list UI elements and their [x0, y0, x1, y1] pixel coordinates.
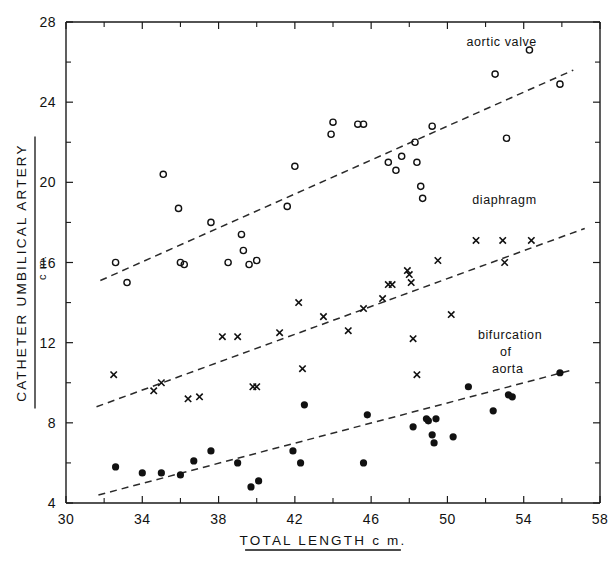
- data-point: [379, 295, 385, 301]
- data-point: [219, 333, 225, 339]
- data-point: [299, 366, 305, 372]
- data-point: [503, 135, 509, 141]
- series-diaphragm: [110, 237, 534, 402]
- x-tick-label: 58: [592, 511, 609, 527]
- data-point: [448, 311, 454, 317]
- data-point: [465, 383, 472, 390]
- data-point: [364, 411, 371, 418]
- data-point: [473, 237, 479, 243]
- data-point: [556, 369, 563, 376]
- data-point: [330, 119, 336, 125]
- data-point: [360, 305, 366, 311]
- data-point: [240, 247, 246, 253]
- data-point: [247, 483, 254, 490]
- y-tick-label: 20: [39, 174, 56, 190]
- data-point: [254, 257, 260, 263]
- trendline-diaphragm: [97, 228, 585, 406]
- data-point: [345, 327, 351, 333]
- data-point: [450, 433, 457, 440]
- data-point: [292, 163, 298, 169]
- y-axis-title-denominator: c m.: [36, 255, 48, 280]
- data-point: [139, 469, 146, 476]
- series-annotation-aortic-valve: aortic valve: [467, 35, 537, 49]
- data-point: [360, 459, 367, 466]
- data-point: [276, 329, 282, 335]
- series-bifurcation-of-aorta: [112, 369, 564, 490]
- data-point: [254, 384, 260, 390]
- data-point: [158, 469, 165, 476]
- x-tick-label: 46: [363, 511, 380, 527]
- data-point: [151, 388, 157, 394]
- data-point: [425, 417, 432, 424]
- x-tick-label: 54: [515, 511, 532, 527]
- data-point: [435, 257, 441, 263]
- data-point: [196, 394, 202, 400]
- data-point: [393, 167, 399, 173]
- y-tick-label: 28: [39, 14, 56, 30]
- figure-container: 3034384246505458481216202428aortic valve…: [0, 0, 613, 562]
- series-aortic-valve: [112, 47, 563, 286]
- trendline-bifurcation-of-aorta: [98, 371, 569, 495]
- data-point: [328, 131, 334, 137]
- x-tick-label: 42: [287, 511, 304, 527]
- trendline-aortic-valve: [100, 70, 573, 280]
- data-point: [430, 439, 437, 446]
- data-point: [410, 423, 417, 430]
- data-point: [185, 396, 191, 402]
- data-point: [112, 463, 119, 470]
- data-point: [160, 171, 166, 177]
- data-point: [238, 231, 244, 237]
- y-tick-label: 4: [48, 495, 56, 511]
- data-point: [432, 415, 439, 422]
- data-point: [500, 237, 506, 243]
- data-point: [234, 459, 241, 466]
- data-point: [389, 281, 395, 287]
- y-tick-label: 8: [48, 415, 56, 431]
- data-point: [190, 457, 197, 464]
- data-point: [414, 372, 420, 378]
- series-annotation-diaphragm: diaphragm: [472, 193, 536, 207]
- data-point: [295, 299, 301, 305]
- data-point: [408, 279, 414, 285]
- data-point: [414, 159, 420, 165]
- data-point: [410, 335, 416, 341]
- series-annotation-bifurcation-of-aorta: of: [500, 345, 512, 359]
- data-point: [399, 153, 405, 159]
- data-point: [255, 477, 262, 484]
- data-point: [284, 203, 290, 209]
- data-point: [177, 471, 184, 478]
- data-point: [234, 333, 240, 339]
- x-tick-label: 50: [439, 511, 456, 527]
- data-point: [110, 372, 116, 378]
- data-point: [124, 279, 130, 285]
- data-point: [418, 183, 424, 189]
- data-point: [225, 259, 231, 265]
- data-point: [385, 159, 391, 165]
- data-point: [112, 259, 118, 265]
- y-tick-label: 12: [39, 335, 56, 351]
- data-point: [208, 219, 214, 225]
- data-point: [207, 447, 214, 454]
- data-point: [297, 459, 304, 466]
- y-tick-label: 24: [39, 94, 56, 110]
- y-axis-title-numerator: CATHETER UMBILICAL ARTERY: [14, 143, 29, 402]
- data-point: [246, 261, 252, 267]
- x-tick-label: 38: [210, 511, 227, 527]
- series-annotation-bifurcation-of-aorta: aorta: [492, 362, 524, 376]
- data-point: [158, 380, 164, 386]
- data-point: [528, 237, 534, 243]
- data-point: [429, 431, 436, 438]
- data-point: [175, 205, 181, 211]
- data-point: [490, 407, 497, 414]
- data-point: [289, 447, 296, 454]
- data-point: [509, 393, 516, 400]
- series-annotation-bifurcation-of-aorta: bifurcation: [478, 328, 542, 342]
- x-axis-title: TOTAL LENGTH c m.: [240, 533, 407, 548]
- data-point: [301, 401, 308, 408]
- data-point: [501, 259, 507, 265]
- x-tick-label: 30: [58, 511, 75, 527]
- scatter-plot: 3034384246505458481216202428aortic valve…: [0, 0, 613, 562]
- data-point: [492, 71, 498, 77]
- x-tick-label: 34: [134, 511, 151, 527]
- data-point: [320, 313, 326, 319]
